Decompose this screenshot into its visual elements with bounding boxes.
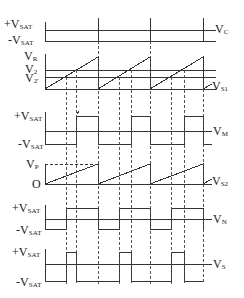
vs-minus-vsat-label: -VSAT: [16, 276, 42, 290]
vc-minus-vsat-label: -VSAT: [8, 34, 34, 48]
waveform-vm: [45, 111, 212, 144]
vc-output-label: VC: [215, 23, 228, 37]
vm-minus-vsat-label: -VSAT: [18, 138, 44, 152]
waveform-vc: [45, 18, 216, 41]
vs1-output-label: VS1: [212, 80, 228, 94]
vn-minus-vsat-label: -VSAT: [16, 224, 42, 238]
vn-plus-vsat-label: +VSAT: [12, 202, 41, 216]
vm-output-label: VM: [213, 125, 228, 139]
vp-label: VP: [26, 158, 39, 172]
vm-plus-vsat-label: +VSAT: [14, 110, 43, 124]
vs-output-label: VS: [213, 258, 226, 272]
zero-label: O: [32, 178, 41, 190]
vc-plus-vsat-label: +VSAT: [4, 18, 33, 32]
vs2-output-label: VS2: [212, 175, 228, 189]
waveform-vn: [45, 205, 212, 229]
waveform-vs2: [45, 164, 212, 184]
waveform-vs: [45, 249, 212, 281]
v2-prime-label: V2': [25, 72, 39, 86]
waveform-vs1: [45, 54, 216, 89]
vn-output-label: VN: [213, 213, 227, 227]
vs-plus-vsat-label: +VSAT: [12, 246, 41, 260]
